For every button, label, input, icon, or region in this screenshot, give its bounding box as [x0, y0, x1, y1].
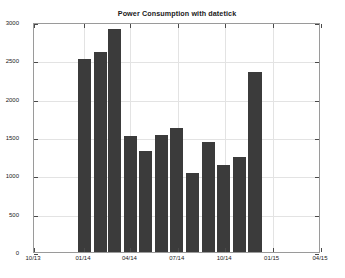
gridline-vertical	[84, 24, 85, 252]
x-tick-mark-top	[34, 24, 35, 28]
gridline-vertical	[130, 24, 131, 252]
bar	[78, 59, 91, 252]
x-tick-mark	[273, 248, 274, 252]
gridline-vertical	[273, 24, 274, 252]
bar-series	[34, 24, 319, 252]
gridline-horizontal	[34, 216, 319, 217]
bar	[108, 29, 121, 252]
y-tick-label: 500	[9, 212, 19, 218]
y-tick-mark-right	[315, 62, 319, 63]
x-tick-label: 10/14	[217, 255, 232, 261]
bar	[170, 128, 183, 252]
x-tick-mark-top	[178, 24, 179, 28]
y-tick-mark	[34, 139, 38, 140]
bar	[217, 165, 230, 252]
y-tick-mark	[34, 177, 38, 178]
gridline-horizontal	[34, 177, 319, 178]
x-tick-label: 07/14	[169, 255, 184, 261]
gridline-horizontal	[34, 101, 319, 102]
x-tick-mark-top	[273, 24, 274, 28]
y-tick-mark-right	[315, 24, 319, 25]
x-tick-label: 01/15	[264, 255, 279, 261]
gridline-vertical	[225, 24, 226, 252]
gridline-vertical	[178, 24, 179, 252]
y-tick-mark-right	[315, 177, 319, 178]
y-tick-mark-right	[315, 101, 319, 102]
x-tick-mark	[130, 248, 131, 252]
bar	[248, 72, 261, 252]
x-tick-mark	[225, 248, 226, 252]
y-tick-mark	[34, 24, 38, 25]
y-tick-mark-right	[315, 139, 319, 140]
x-tick-label: 10/13	[25, 255, 40, 261]
gridline-horizontal	[34, 139, 319, 140]
x-tick-mark	[84, 248, 85, 252]
y-tick-label: 1500	[6, 135, 19, 141]
y-tick-mark	[34, 101, 38, 102]
y-tick-label: 1000	[6, 173, 19, 179]
y-tick-mark	[34, 62, 38, 63]
axis-ticks	[34, 24, 319, 252]
y-tick-mark-right	[315, 216, 319, 217]
x-tick-label: 04/14	[122, 255, 137, 261]
bar	[186, 173, 199, 252]
y-tick-label: 3000	[6, 20, 19, 26]
y-tick-mark	[34, 216, 38, 217]
bar	[233, 157, 246, 252]
x-tick-label: 01/14	[75, 255, 90, 261]
y-tick-label: 0	[16, 250, 19, 256]
x-tick-mark	[321, 248, 322, 252]
chart-title: Power Consumption with datetick	[33, 9, 321, 18]
bar	[94, 52, 107, 252]
bar	[155, 135, 168, 252]
gridline-horizontal	[34, 62, 319, 63]
x-tick-mark-top	[84, 24, 85, 28]
x-tick-mark-top	[225, 24, 226, 28]
bar	[124, 136, 137, 252]
x-tick-mark	[34, 248, 35, 252]
x-tick-mark-top	[321, 24, 322, 28]
x-tick-mark-top	[130, 24, 131, 28]
x-tick-label: 04/15	[312, 255, 327, 261]
x-tick-mark	[178, 248, 179, 252]
figure-canvas: Power Consumption with datetick 05001000…	[0, 0, 345, 278]
plot-area	[33, 23, 320, 253]
y-tick-label: 2000	[6, 97, 19, 103]
bar	[139, 151, 152, 252]
gridlines	[34, 24, 319, 252]
bar	[202, 142, 215, 252]
y-tick-label: 2500	[6, 58, 19, 64]
